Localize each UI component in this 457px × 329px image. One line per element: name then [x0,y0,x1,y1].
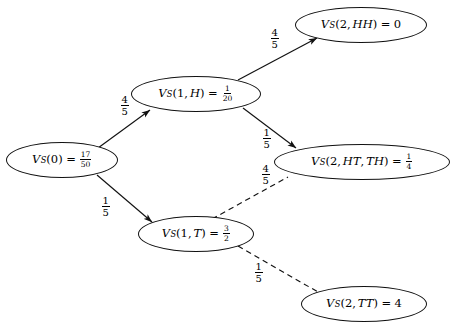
edge-label-vs0-to-vs1h: 45 [120,95,129,117]
node-vs-2-hh[interactable]: VS(2,HH)=0 [295,7,427,43]
node-vs-2-tt-label: VS(2,TT)=4 [326,298,402,310]
value-tree-diagram: VS(0)=1750 VS(1,H)=120 VS(1,T)=32 VS(2,H… [0,0,457,329]
edge-label-vs0-to-vs1t: 15 [101,196,110,218]
node-vs-1-t[interactable]: VS(1,T)=32 [138,216,254,252]
edge-label-vs1h-to-vs2hh: 45 [270,28,279,50]
node-vs-2-ht-th[interactable]: VS(2,HT,TH)=14 [274,144,450,180]
edge-vs1t-to-vs2htth [212,177,288,219]
edge-label-vs1t-to-vs2htth: 45 [261,164,270,186]
node-vs-2-tt[interactable]: VS(2,TT)=4 [301,286,427,322]
node-vs-0[interactable]: VS(0)=1750 [6,142,118,178]
node-vs-0-label: VS(0)=1750 [32,151,92,168]
edge-label-vs1t-to-vs2tt: 15 [254,262,263,284]
node-vs-1-t-label: VS(1,T)=32 [162,225,230,242]
node-vs-2-ht-th-label: VS(2,HT,TH)=14 [311,153,413,170]
edge-label-vs1h-to-vs2htth: 15 [262,128,271,150]
edge-vs1t-to-vs2tt [238,246,318,292]
node-vs-1-h[interactable]: VS(1,H)=120 [131,76,261,112]
node-vs-2-hh-label: VS(2,HH)=0 [321,19,401,31]
node-vs-1-h-label: VS(1,H)=120 [158,85,234,102]
